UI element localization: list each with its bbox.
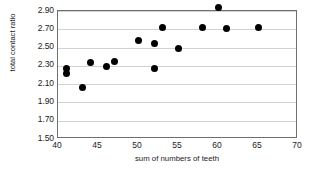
y-tick-label: 2.50 — [2, 42, 54, 51]
data-point — [111, 58, 118, 65]
y-tick-label: 2.10 — [2, 79, 54, 88]
data-point — [103, 63, 110, 70]
x-tick-label: 55 — [164, 140, 190, 150]
x-axis-title: sum of numbers of teeth — [57, 154, 297, 163]
data-point — [79, 84, 86, 91]
data-point — [223, 25, 230, 32]
x-tick-label: 50 — [124, 140, 150, 150]
y-tick-label: 2.90 — [2, 6, 54, 15]
x-tick-label: 70 — [284, 140, 310, 150]
data-point — [175, 45, 182, 52]
scatter-chart: total contact ratio 1.501.701.902.102.30… — [0, 0, 319, 169]
y-tick-label: 1.70 — [2, 115, 54, 124]
data-point — [87, 59, 94, 66]
data-point — [151, 40, 158, 47]
data-point — [215, 4, 222, 11]
y-tick-label: 2.70 — [2, 24, 54, 33]
x-tick-label: 40 — [44, 140, 70, 150]
x-axis-tick-labels: 40455055606570 — [57, 140, 297, 152]
y-tick-label: 2.30 — [2, 60, 54, 69]
y-tick-label: 1.90 — [2, 97, 54, 106]
data-point — [199, 24, 206, 31]
data-points-layer — [58, 11, 296, 137]
x-tick-label: 60 — [204, 140, 230, 150]
data-point — [63, 70, 70, 77]
plot-area — [57, 10, 297, 138]
data-point — [151, 65, 158, 72]
data-point — [135, 37, 142, 44]
y-axis-tick-labels: 1.501.701.902.102.302.502.702.90 — [0, 10, 54, 138]
x-tick-label: 65 — [244, 140, 270, 150]
x-tick-label: 45 — [84, 140, 110, 150]
data-point — [255, 24, 262, 31]
data-point — [159, 24, 166, 31]
